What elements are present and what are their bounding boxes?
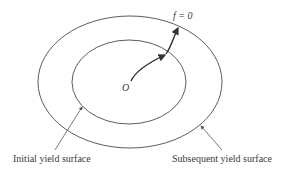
initial-surface-pointer bbox=[55, 107, 82, 150]
initial-surface-label: Initial yield surface bbox=[13, 153, 91, 164]
subsequent-surface-label: Subsequent yield surface bbox=[172, 153, 272, 164]
loading-path-continued bbox=[166, 28, 178, 54]
diagram-graphics bbox=[0, 0, 291, 173]
yield-surface-diagram: O f = 0 Initial yield surface Subsequent… bbox=[0, 0, 291, 173]
loading-path bbox=[131, 55, 165, 81]
subsequent-yield-surface bbox=[38, 16, 222, 148]
yield-function-label: f = 0 bbox=[173, 10, 193, 21]
subsequent-surface-pointer bbox=[201, 126, 222, 150]
origin-label: O bbox=[122, 82, 129, 93]
